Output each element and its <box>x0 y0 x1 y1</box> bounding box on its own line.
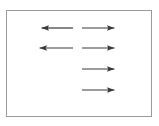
arrow-diagram-canvas <box>0 0 159 126</box>
arrow-group <box>0 0 159 126</box>
arrow-layer <box>0 0 159 126</box>
